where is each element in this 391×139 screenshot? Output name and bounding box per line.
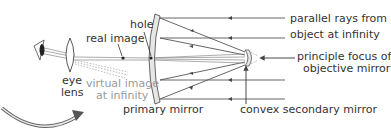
parallel-rays [160,18,285,99]
label-object-infinity: object at infinity [290,29,380,40]
label-convex-secondary: convex secondary mirror [240,104,377,115]
real-image-dot [121,56,124,59]
label-eye: eye [62,75,82,86]
convex-secondary-mirror [245,50,252,66]
label-at-infinity: at infinity [96,90,148,101]
label-real-image: real image [86,33,145,44]
label-objective-mirror: objective mirror [303,63,390,74]
hole-dot [149,56,152,59]
label-hole: hole [130,19,154,30]
eye-icon [34,40,45,60]
label-parallel-rays: parallel rays from [290,13,387,24]
virtual-image-rays [75,60,128,78]
label-virtual-image: virtual image [86,78,159,89]
real-image-pointer [118,44,122,56]
label-primary-mirror: primary mirror [123,104,203,115]
label-lens: lens [61,87,84,98]
eye-lens [66,38,74,72]
curved-arrow-icon [2,108,84,126]
label-principle-focus: principle focus of [297,51,391,62]
ray-arrows [189,16,232,101]
